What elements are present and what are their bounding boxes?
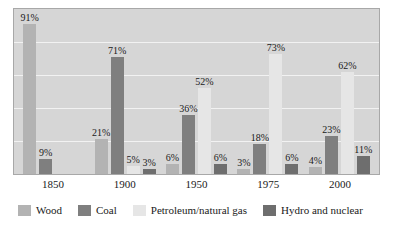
legend-swatch-petroleum — [133, 205, 146, 216]
bar[interactable]: 91% — [23, 24, 36, 174]
bar[interactable]: 3% — [237, 169, 250, 174]
bar-slot: 5% — [127, 9, 140, 174]
bar[interactable]: 73% — [269, 54, 282, 174]
bar-slot: 11% — [357, 9, 370, 174]
bar-slot: 3% — [237, 9, 250, 174]
legend-item-petroleum[interactable]: Petroleum/natural gas — [133, 205, 247, 216]
bar[interactable]: 21% — [95, 139, 108, 174]
bar[interactable]: 5% — [127, 166, 140, 174]
bar-slot: 71% — [111, 9, 124, 174]
bar-slot: 6% — [285, 9, 298, 174]
bar-value-label: 23% — [322, 125, 340, 135]
legend-item-coal[interactable]: Coal — [78, 205, 117, 216]
legend-label: Hydro and nuclear — [281, 205, 363, 216]
bar-slot: 18% — [253, 9, 266, 174]
bar-group: 6%36%52%6% — [161, 9, 232, 174]
bar-value-label: 5% — [126, 155, 139, 165]
bar[interactable]: 71% — [111, 57, 124, 174]
bar-value-label: 73% — [267, 43, 285, 53]
legend-swatch-wood — [18, 205, 31, 216]
bar-value-label: 3% — [142, 158, 155, 168]
bar-value-label: 91% — [21, 13, 39, 23]
bar-slot: 91% — [23, 9, 36, 174]
legend-swatch-hydro — [263, 205, 276, 216]
bar[interactable]: 11% — [357, 156, 370, 174]
bar[interactable]: 52% — [198, 88, 211, 174]
plot-area: 91%9%21%71%5%3%6%36%52%6%3%18%73%6%4%23%… — [13, 8, 380, 175]
bar-slot: 23% — [325, 9, 338, 174]
bar-slot: 4% — [309, 9, 322, 174]
bar-value-label: 9% — [39, 148, 52, 158]
bar-slot: 52% — [198, 9, 211, 174]
bar-group: 3%18%73%6% — [232, 9, 303, 174]
bar-value-label: 11% — [354, 145, 372, 155]
bar-slot: 62% — [341, 9, 354, 174]
bar-value-label: 21% — [92, 128, 110, 138]
legend-item-wood[interactable]: Wood — [18, 205, 62, 216]
bar-value-label: 52% — [195, 77, 213, 87]
legend-item-hydro[interactable]: Hydro and nuclear — [263, 205, 363, 216]
bar-groups: 91%9%21%71%5%3%6%36%52%6%3%18%73%6%4%23%… — [14, 9, 379, 174]
bar-slot: 36% — [182, 9, 195, 174]
bar[interactable]: 23% — [325, 136, 338, 174]
bar[interactable]: 6% — [285, 164, 298, 174]
bar-slot: 6% — [166, 9, 179, 174]
bar[interactable]: 6% — [214, 164, 227, 174]
bar-slot: 9% — [39, 9, 52, 174]
bar-value-label: 6% — [166, 153, 179, 163]
bar[interactable]: 36% — [182, 115, 195, 174]
x-axis-tick-1850: 1850 — [17, 176, 89, 192]
legend-swatch-coal — [78, 205, 91, 216]
bar-value-label: 18% — [251, 133, 269, 143]
bar[interactable]: 4% — [309, 167, 322, 174]
bar-slot: 6% — [214, 9, 227, 174]
bar-group: 21%71%5%3% — [89, 9, 160, 174]
bar-slot — [55, 9, 68, 174]
x-axis-tick-1900: 1900 — [89, 176, 161, 192]
bar-value-label: 6% — [214, 153, 227, 163]
x-axis-tick-2000: 2000 — [304, 176, 376, 192]
legend-label: Wood — [36, 205, 62, 216]
bar[interactable]: 18% — [253, 144, 266, 174]
x-axis-tick-1950: 1950 — [161, 176, 233, 192]
bar-value-label: 62% — [338, 61, 356, 71]
chart-container: 91%9%21%71%5%3%6%36%52%6%3%18%73%6%4%23%… — [0, 0, 399, 232]
bar-slot: 3% — [143, 9, 156, 174]
bar[interactable]: 3% — [143, 169, 156, 174]
bar-value-label: 3% — [237, 158, 250, 168]
bar-group: 4%23%62%11% — [304, 9, 375, 174]
bar-slot: 73% — [269, 9, 282, 174]
bar-slot — [71, 9, 84, 174]
bar-value-label: 4% — [309, 156, 322, 166]
x-axis-tick-labels: 18501900195019752000 — [13, 176, 380, 192]
bar-value-label: 36% — [179, 104, 197, 114]
bar-slot: 21% — [95, 9, 108, 174]
bar-value-label: 6% — [285, 153, 298, 163]
bar[interactable]: 6% — [166, 164, 179, 174]
legend-label: Petroleum/natural gas — [151, 205, 247, 216]
x-axis-tick-1975: 1975 — [232, 176, 304, 192]
bar-group: 91%9% — [18, 9, 89, 174]
chart-legend: WoodCoalPetroleum/natural gasHydro and n… — [18, 200, 388, 220]
bar[interactable]: 62% — [341, 72, 354, 174]
bar[interactable]: 9% — [39, 159, 52, 174]
legend-label: Coal — [96, 205, 117, 216]
bar-value-label: 71% — [108, 46, 126, 56]
